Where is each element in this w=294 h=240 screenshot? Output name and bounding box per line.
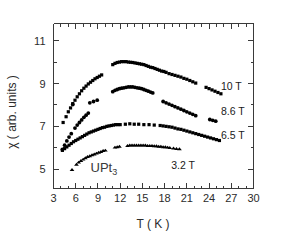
data-point (151, 91, 155, 95)
data-point (219, 92, 222, 95)
x-tick-label: 12 (114, 192, 126, 204)
data-point (176, 75, 179, 78)
data-point (64, 115, 67, 118)
x-axis-title: T ( K ) (136, 217, 169, 231)
data-series (61, 122, 221, 152)
data-point (216, 91, 219, 94)
data-point (194, 81, 197, 84)
data-point (213, 90, 216, 93)
data-point (194, 114, 198, 118)
x-tick-label: 27 (225, 192, 237, 204)
data-point (159, 124, 162, 127)
x-tick-label: 3 (50, 192, 56, 204)
y-axis-title: χ ( arb. units ) (5, 75, 19, 149)
data-point (137, 123, 140, 126)
data-point (167, 72, 170, 75)
x-tick-label: 30 (247, 192, 259, 204)
y-axis-tick-labels: 57911 (34, 35, 45, 176)
x-tick-label: 6 (73, 192, 79, 204)
data-point (206, 135, 209, 138)
data-point (142, 123, 145, 126)
y-tick-label: 11 (34, 35, 45, 47)
susceptibility-scatter-plot: 36912151821242730 57911 10 T8.6 T6.5 T3.… (0, 0, 294, 240)
data-point (182, 77, 185, 80)
data-point (153, 123, 156, 126)
data-point (88, 101, 92, 105)
data-point (65, 139, 69, 143)
data-point (215, 138, 218, 141)
data-point (179, 128, 182, 131)
data-point (164, 125, 167, 128)
data-point (214, 119, 218, 123)
data-point (128, 122, 131, 125)
data-point (194, 132, 197, 135)
data-point (67, 135, 71, 139)
data-point (95, 98, 99, 102)
series-label-8-6-t: 8.6 T (221, 105, 245, 117)
data-point (210, 88, 213, 91)
data-point (62, 121, 65, 124)
data-point (162, 124, 165, 127)
series-label-3-2-t: 3.2 T (171, 159, 195, 171)
data-point (212, 137, 215, 140)
data-point (173, 74, 176, 77)
data-point (185, 129, 188, 132)
data-point (200, 134, 203, 137)
data-point (203, 135, 206, 138)
data-point (119, 123, 122, 126)
data-series (60, 85, 217, 151)
x-tick-label: 21 (181, 192, 193, 204)
data-point (179, 75, 182, 78)
series-label-6-5-t: 6.5 T (221, 129, 245, 141)
data-point (176, 127, 179, 130)
data-point (185, 78, 188, 81)
data-point (209, 136, 212, 139)
x-tick-label: 15 (136, 192, 148, 204)
data-point (100, 73, 103, 76)
data-point (167, 125, 170, 128)
data-point (164, 71, 167, 74)
data-point (133, 123, 136, 126)
x-tick-label: 24 (203, 192, 215, 204)
data-point (69, 132, 73, 136)
data-point (191, 80, 194, 83)
data-point (197, 133, 200, 136)
sample-annotation-layer: UPt3 (91, 160, 118, 177)
y-tick-label: 5 (39, 163, 45, 175)
sample-formula-label: UPt3 (91, 160, 118, 177)
x-axis-tick-labels: 36912151821242730 (50, 192, 259, 204)
series-labels-layer: 10 T8.6 T6.5 T3.2 T (171, 80, 245, 170)
y-tick-label: 9 (39, 78, 45, 90)
data-point (69, 106, 72, 109)
data-series-layer (60, 60, 222, 171)
data-point (71, 103, 75, 107)
data-point (124, 123, 127, 126)
data-point (76, 95, 79, 98)
data-point (207, 87, 210, 90)
data-point (147, 123, 150, 126)
data-series (70, 144, 182, 171)
series-label-10-t: 10 T (221, 80, 242, 92)
chart-figure: 36912151821242730 57911 10 T8.6 T6.5 T3.… (0, 0, 294, 240)
data-point (170, 126, 173, 129)
x-tick-label: 18 (158, 192, 170, 204)
data-point (188, 130, 191, 133)
data-point (204, 86, 207, 89)
data-point (78, 92, 81, 95)
y-tick-label: 7 (39, 120, 45, 132)
data-point (73, 99, 76, 102)
data-point (92, 100, 96, 104)
data-point (182, 129, 185, 132)
data-point (86, 111, 90, 115)
data-point (188, 79, 191, 82)
x-tick-label: 9 (95, 192, 101, 204)
data-point (170, 73, 173, 76)
data-point (173, 126, 176, 129)
data-point (191, 131, 194, 134)
data-point (67, 110, 70, 113)
data-point (70, 168, 75, 171)
